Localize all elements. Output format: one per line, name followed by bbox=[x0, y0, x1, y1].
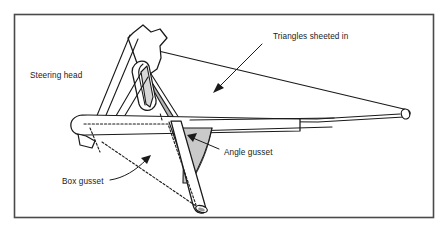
label-angle-gusset: Angle gusset bbox=[224, 148, 273, 157]
label-box-gusset: Box gusset bbox=[62, 177, 104, 186]
figure-container: Steering head Triangles sheeted in Angle… bbox=[0, 0, 448, 236]
frame-diagram-svg: Steering head Triangles sheeted in Angle… bbox=[0, 0, 448, 236]
label-steering-head: Steering head bbox=[30, 71, 83, 80]
label-triangles-sheeted-in: Triangles sheeted in bbox=[273, 32, 349, 41]
